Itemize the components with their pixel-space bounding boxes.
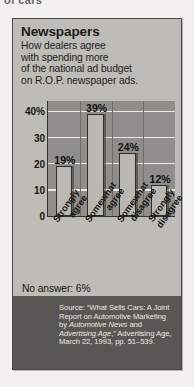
subtitle-line: How dealers agree: [21, 40, 175, 52]
y-axis-tick-label: 30: [34, 132, 45, 143]
y-axis-tick-label: 40%: [25, 106, 45, 117]
bar-chart: 010203040%19%39%24%12% StronglyagreeSome…: [21, 101, 175, 231]
bar-value-label: 24%: [118, 141, 139, 153]
subtitle-line: of the national ad budget: [21, 63, 175, 75]
y-axis-tick-label: 0: [39, 211, 45, 222]
chart-panel: Newspapers How dealers agree with spendi…: [12, 18, 182, 370]
cut-off-text-fragment: of cars: [4, 0, 74, 6]
subtitle-line: on R.O.P. newspaper ads.: [21, 75, 175, 87]
chart-subtitle: How dealers agree with spending more of …: [21, 40, 175, 86]
y-axis-tick-label: 20: [34, 158, 45, 169]
source-citation: Source: “What Sells Cars: A Joint Report…: [59, 304, 173, 347]
category-axis-labels: StronglyagreeSomewhatagreeSomewhatdisagr…: [47, 219, 175, 277]
source-band: Source: “What Sells Cars: A Joint Report…: [13, 296, 181, 369]
bar-value-label: 39%: [86, 102, 107, 114]
no-answer-annotation: No answer: 6%: [22, 283, 91, 294]
subtitle-line: with spending more: [21, 52, 175, 64]
bar-value-label: 12%: [150, 173, 171, 185]
panel-header: Newspapers How dealers agree with spendi…: [21, 24, 175, 86]
bar-value-label: 19%: [54, 154, 75, 166]
chart-panel-root: of cars Newspapers How dealers agree wit…: [0, 0, 194, 387]
chart-title: Newspapers: [21, 24, 175, 39]
y-axis-tick-label: 10: [34, 184, 45, 195]
